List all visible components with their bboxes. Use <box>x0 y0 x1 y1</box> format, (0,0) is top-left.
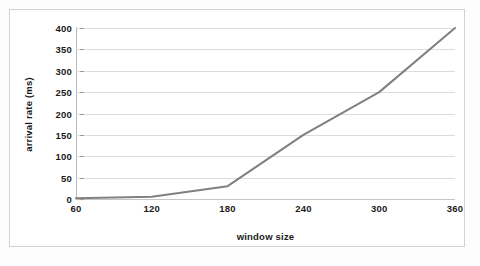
y-tick-label-400: 400 <box>10 23 72 34</box>
x-axis-title: window size <box>76 231 455 242</box>
y-tick-mark-200 <box>80 114 84 115</box>
y-tick-mark-50 <box>80 178 84 179</box>
y-tick-mark-100 <box>80 156 84 157</box>
plot-area <box>76 28 455 199</box>
y-tick-mark-250 <box>80 92 84 93</box>
y-tick-mark-150 <box>80 135 84 136</box>
x-tick-label-240: 240 <box>295 203 311 214</box>
y-tick-mark-0 <box>80 199 84 200</box>
y-axis-ticks: 050100150200250300350400 <box>8 28 72 199</box>
series-line-chart <box>76 28 455 199</box>
x-tick-label-300: 300 <box>371 203 387 214</box>
y-axis-title-text: arrival rate (ms) <box>23 77 34 152</box>
y-tick-mark-350 <box>80 49 84 50</box>
y-tick-mark-300 <box>80 71 84 72</box>
x-tick-label-60: 60 <box>71 203 82 214</box>
series-arrival-rate <box>76 28 455 198</box>
x-axis-ticks: 60120180240300360 <box>76 203 455 219</box>
gridline-0 <box>76 199 455 200</box>
x-tick-label-360: 360 <box>447 203 463 214</box>
y-axis-title: arrival rate (ms) <box>20 52 36 176</box>
chart-figure: 050100150200250300350400 601201802403003… <box>0 0 480 266</box>
x-tick-label-180: 180 <box>219 203 235 214</box>
x-tick-label-120: 120 <box>144 203 160 214</box>
y-tick-label-0: 0 <box>10 194 72 205</box>
y-tick-mark-400 <box>80 28 84 29</box>
